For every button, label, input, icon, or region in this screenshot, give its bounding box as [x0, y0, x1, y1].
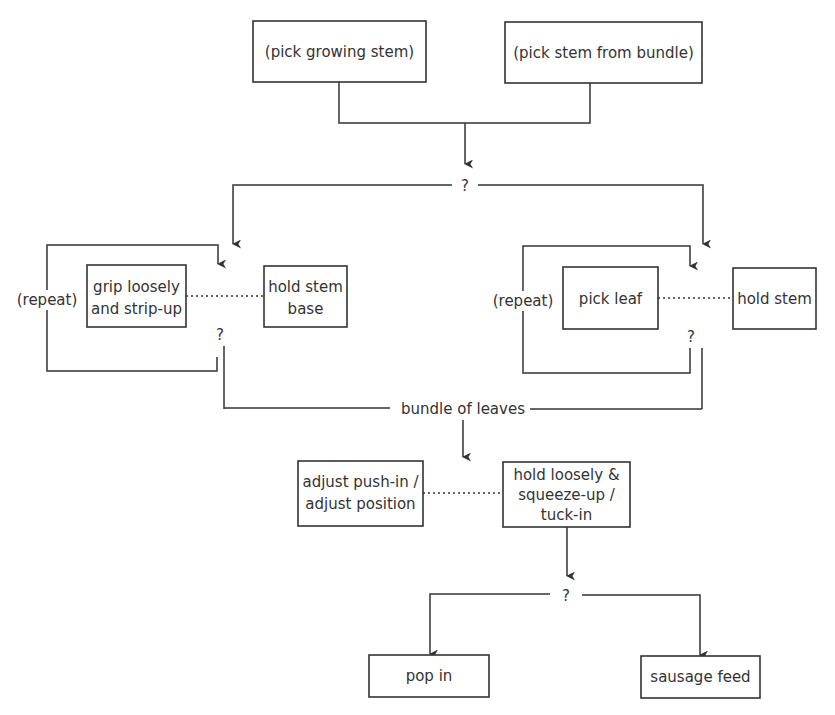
merge-label: bundle of leaves	[401, 400, 525, 418]
decision-label: ?	[562, 587, 570, 605]
decision-top: ?	[233, 177, 703, 244]
node-pick-stem-from-bundle: (pick stem from bundle)	[505, 22, 702, 83]
decision-label: ?	[687, 328, 695, 346]
repeat-label: (repeat)	[493, 292, 554, 310]
node-label: (pick stem from bundle)	[513, 44, 694, 62]
node-label-line-2: base	[288, 300, 324, 318]
node-grip-loosely: grip loosely and strip-up	[87, 265, 186, 327]
node-pick-leaf: pick leaf	[563, 267, 658, 329]
node-label-line-3: tuck-in	[541, 506, 592, 524]
right-branch: (repeat) pick leaf hold stem ?	[493, 246, 816, 409]
node-label-line-2: and strip-up	[91, 300, 182, 318]
node-sausage-feed: sausage feed	[641, 656, 760, 698]
flowchart-diagram: (pick growing stem) (pick stem from bund…	[0, 0, 835, 715]
top-merge-connector	[339, 82, 590, 164]
node-label: pick leaf	[579, 290, 643, 308]
node-pick-growing-stem: (pick growing stem)	[253, 21, 426, 82]
node-label-line-1: grip loosely	[93, 278, 180, 296]
merge-bundle-of-leaves: bundle of leaves	[224, 400, 702, 457]
node-label: sausage feed	[650, 668, 750, 686]
node-adjust-push-in: adjust push-in / adjust position	[298, 461, 423, 526]
node-label-line-2: adjust position	[305, 495, 415, 513]
node-label-line-1: hold stem	[268, 278, 343, 296]
node-label-line-2: squeeze-up /	[518, 486, 616, 504]
decision-label: ?	[216, 326, 224, 344]
left-branch: (repeat) grip loosely and strip-up hold …	[17, 245, 347, 409]
node-label-line-1: hold loosely &	[513, 466, 620, 484]
node-label-line-1: adjust push-in /	[302, 473, 419, 491]
node-hold-stem: hold stem	[733, 268, 816, 329]
node-hold-stem-base: hold stem base	[264, 266, 347, 327]
node-pop-in: pop in	[369, 655, 489, 697]
node-hold-loosely: hold loosely & squeeze-up / tuck-in	[503, 462, 630, 527]
node-label: (pick growing stem)	[265, 43, 414, 61]
decision-bottom: ?	[430, 587, 700, 655]
node-label: hold stem	[737, 290, 812, 308]
decision-label: ?	[461, 177, 469, 195]
node-label: pop in	[406, 667, 453, 685]
repeat-label: (repeat)	[17, 291, 78, 309]
